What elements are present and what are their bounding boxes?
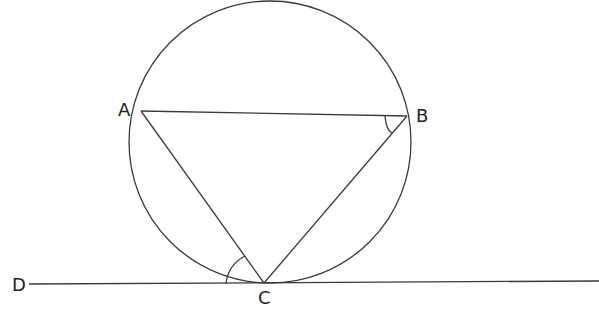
tangent-line-dc — [29, 281, 599, 284]
label-c: C — [258, 287, 271, 308]
label-a: A — [118, 99, 131, 120]
angle-mark-b — [385, 116, 392, 133]
circumcircle — [129, 1, 411, 283]
label-d: D — [12, 274, 26, 295]
segment-bc — [264, 116, 407, 283]
segment-ac — [141, 111, 264, 283]
segment-ab — [141, 111, 407, 116]
label-b: B — [416, 105, 428, 126]
geometry-diagram: A B C D — [0, 0, 599, 312]
